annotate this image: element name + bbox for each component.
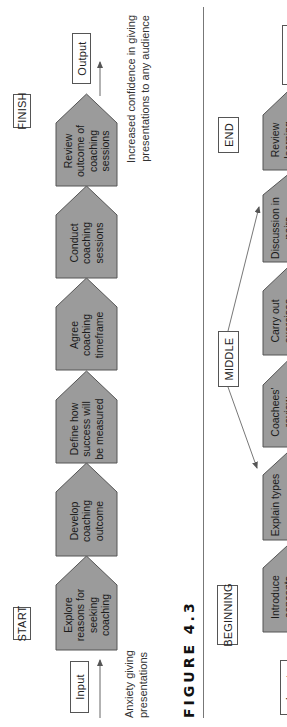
top-step-3: Define how success will be measured [56, 371, 117, 463]
figure-caption: FIGURE 4.3 [181, 600, 197, 718]
step-label: Explain types [265, 472, 287, 538]
step-label: Coachees' review profiles [265, 379, 287, 445]
bottom-step-2: Explain types [263, 447, 287, 540]
output-note-line-2: presentations to any audience [138, 15, 152, 175]
step-label: Discussion in pairs [265, 196, 287, 260]
top-step-2: Develop coaching outcome [56, 463, 117, 556]
input-note: Anxiety giving presentations [122, 588, 150, 718]
input-note-line-2: presentations [136, 588, 150, 718]
step-label: Define how success will be measured [58, 397, 115, 461]
top-step-1: Explore reasons for seeking coaching [56, 556, 117, 650]
bottom-step-1: Introduce concepts [263, 540, 287, 632]
bottom-step-5: Discussion in pairs [263, 170, 287, 262]
top-step-6: Review outcome of coaching sessions [56, 94, 117, 186]
top-step-4: Agree coaching timeframe [56, 278, 117, 370]
step-label: Review outcome of coaching sessions [58, 118, 115, 184]
beginning-label: BEGINNING [217, 585, 238, 645]
step-label: Introduce concepts [265, 568, 287, 626]
step-label: Explore reasons for seeking coaching [58, 582, 115, 648]
input-note-line-1: Anxiety giving [122, 588, 136, 718]
step-label: Develop coaching outcome [58, 492, 115, 550]
bottom-step-6: Review learning [263, 86, 287, 170]
bottom-step-4: Carry out exercises [263, 262, 287, 355]
end-label: END [218, 117, 239, 153]
step-label: Conduct coaching sessions [58, 214, 115, 272]
bottom-step-3: Coachees' review profiles [263, 355, 287, 447]
bottom-output-box: Output [282, 25, 287, 85]
section-divider [203, 7, 204, 718]
bottom-input-box: Input [280, 660, 287, 715]
middle-label: MIDDLE [218, 331, 239, 387]
output-note: Increased confidence in giving presentat… [124, 15, 152, 175]
step-label: Review learning [265, 114, 287, 166]
step-label: Carry out exercises [265, 291, 287, 351]
step-label: Agree coaching timeframe [58, 306, 115, 364]
top-step-5: Conduct coaching sessions [56, 186, 117, 278]
figure-page: START FINISH Input Output Anxiety giving… [0, 0, 287, 727]
output-note-line-1: Increased confidence in giving [124, 15, 138, 175]
